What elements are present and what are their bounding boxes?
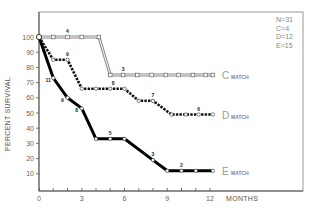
data-point [66, 58, 69, 61]
at-risk-count: 2 [180, 162, 183, 168]
legend-entry: C=4 [276, 25, 289, 32]
data-point [151, 158, 154, 161]
y-tick-label: 50 [26, 110, 34, 117]
legend-entry: N=31 [276, 16, 293, 23]
data-point [180, 169, 183, 172]
data-point [151, 99, 154, 102]
data-point [211, 73, 215, 77]
at-risk-count: 7 [152, 92, 155, 98]
y-tick-label: 30 [26, 140, 34, 147]
at-risk-count: 3 [122, 66, 125, 72]
data-point [137, 99, 140, 102]
at-risk-count: 6 [197, 106, 200, 112]
at-risk-count: 8 [75, 107, 78, 113]
series-label-letter: D [222, 110, 229, 121]
y-tick-label: 70 [26, 79, 34, 86]
data-point [80, 35, 84, 39]
series-label-suffix: MATCH [231, 114, 249, 120]
legend-entry: E=15 [276, 42, 293, 49]
at-risk-count: 4 [66, 28, 69, 34]
at-risk-count: 9 [66, 51, 69, 57]
data-point [194, 169, 197, 172]
data-point [121, 73, 125, 77]
series-label-letter: E [222, 166, 229, 177]
data-point [66, 35, 70, 39]
data-point [109, 137, 112, 140]
x-tick-label: 0 [37, 195, 41, 202]
data-point [51, 35, 55, 39]
data-point [52, 58, 55, 61]
data-point [123, 87, 126, 90]
data-point [80, 107, 83, 110]
series-label-letter: C [222, 70, 229, 81]
series-label-suffix: MATCH [231, 74, 249, 80]
data-point [80, 87, 83, 90]
series-d-match: 9876DMATCH [39, 37, 249, 121]
y-tick-label: 100 [22, 34, 34, 41]
y-tick-label: 10 [26, 170, 34, 177]
data-point [211, 113, 214, 116]
y-tick-label: 40 [26, 125, 34, 132]
survival-chart: 102030405060708090100 036912 PERCENT SUR… [0, 0, 316, 215]
at-risk-count: 3 [152, 151, 155, 157]
data-point [94, 87, 97, 90]
series-c-match: 43CMATCH [39, 28, 249, 81]
y-tick-label: 20 [26, 155, 34, 162]
series-label-suffix: MATCH [231, 170, 249, 176]
data-point [191, 73, 195, 77]
at-risk-count: 9 [61, 97, 64, 103]
data-point [150, 73, 154, 77]
x-tick-label: 3 [80, 195, 84, 202]
x-tick-label: 9 [165, 195, 169, 202]
data-point [166, 169, 169, 172]
series-line-inner [39, 37, 213, 75]
data-point [109, 87, 112, 90]
origin-point [36, 34, 41, 39]
data-point [94, 137, 97, 140]
data-point [204, 73, 208, 77]
data-point [184, 113, 187, 116]
x-tick-label: 12 [206, 195, 214, 202]
data-point [170, 113, 173, 116]
data-point [177, 73, 181, 77]
x-ticks: 036912 [37, 188, 214, 202]
at-risk-count: 8 [112, 80, 115, 86]
x-tick-label: 6 [123, 195, 127, 202]
series-line-outer [39, 37, 213, 75]
y-axis-title: PERCENT SURVIVAL [4, 77, 11, 151]
data-point [164, 73, 168, 77]
data-point [108, 73, 112, 77]
legend: N=31C=4D=12E=15 [276, 16, 293, 49]
at-risk-count: 11 [46, 77, 52, 83]
series-e-match: 1198532EMATCH [39, 37, 249, 177]
data-point [52, 76, 55, 79]
y-tick-label: 90 [26, 49, 34, 56]
series-layer: 43CMATCH9876DMATCH1198532EMATCH [36, 28, 249, 177]
y-tick-label: 60 [26, 94, 34, 101]
x-axis-title: MONTHS [226, 195, 258, 202]
data-point [123, 137, 126, 140]
y-ticks: 102030405060708090100 [22, 34, 39, 178]
data-point [97, 35, 101, 39]
data-point [211, 169, 214, 172]
data-point [136, 73, 140, 77]
data-point [197, 113, 200, 116]
series-line [39, 37, 213, 171]
data-point [66, 96, 69, 99]
at-risk-count: 5 [109, 130, 112, 136]
y-tick-label: 80 [26, 64, 34, 71]
plot-frame [39, 12, 303, 191]
legend-entry: D=12 [276, 33, 293, 40]
